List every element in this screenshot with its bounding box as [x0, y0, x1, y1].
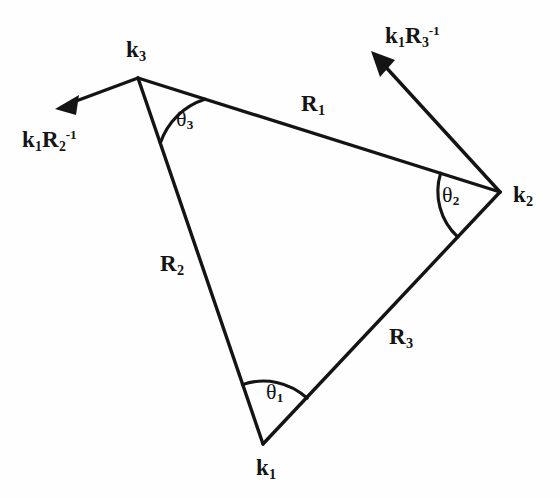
side-label-R3: R3: [389, 325, 413, 350]
angle-label-theta2: θ2: [442, 184, 459, 208]
diagram-canvas: [0, 0, 560, 498]
geometry-diagram: k3 k2 k1 R1 R2 R3 θ3 θ2 θ1 k1R2-1 k1R3-1: [0, 0, 560, 498]
side-R2-line: [138, 78, 263, 444]
vector-label-k1R2inv: k1R2-1: [22, 128, 76, 154]
side-label-R2: R2: [160, 252, 184, 277]
angle-label-theta1: θ1: [266, 381, 283, 405]
vertex-label-k1: k1: [256, 456, 276, 481]
angle-label-theta3: θ3: [176, 108, 193, 132]
vertex-label-k2: k2: [513, 183, 533, 208]
vertex-label-k3: k3: [126, 38, 146, 63]
side-R3-line: [263, 192, 500, 444]
vector-k1R2inv-arrowhead: [55, 95, 79, 115]
vector-k1R2inv-shaft: [68, 78, 138, 104]
side-label-R1: R1: [301, 92, 325, 117]
vector-label-k1R3inv: k1R3-1: [385, 24, 439, 50]
